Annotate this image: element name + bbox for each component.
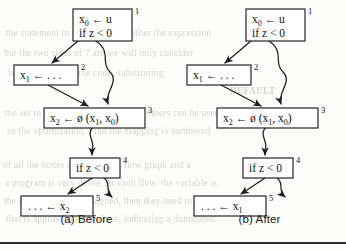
edge-4-to-exit <box>104 178 112 197</box>
node-5-tag: 5 <box>96 193 100 203</box>
node-1-tag: 1 <box>308 6 312 16</box>
node-3-sep: , x <box>272 112 284 125</box>
node-2-after: x1 ← . . . 2 <box>187 62 258 85</box>
panel-after: x0 ← u if z < 0 1 x1 ← . . . 2 <box>173 0 346 232</box>
panel-before: x0 ← u if z < 0 1 x1 ← . . . 2 <box>0 0 173 232</box>
node-2-before: x1 ← . . . 2 <box>14 62 85 85</box>
node-3-phi: ← ø (x <box>233 112 269 125</box>
edge-3-to-4 <box>263 128 266 155</box>
caption-before: (a) Before <box>0 213 173 225</box>
figure-control-flow-graphs: x0 ← u if z < 0 1 x1 ← . . . 2 <box>0 0 346 232</box>
scanned-page: the statement in question or whether the… <box>0 0 346 249</box>
node-3-tag: 3 <box>148 105 152 115</box>
cfg-graph-before: x0 ← u if z < 0 1 x1 ← . . . 2 <box>0 0 173 232</box>
node-5-prefix: . . . ← x <box>28 200 66 212</box>
edge-2-to-3 <box>221 85 261 106</box>
node-3-tag: 3 <box>321 105 325 115</box>
node-3-close: ) <box>288 112 292 125</box>
node-1-line1-rest: ← u <box>89 13 112 25</box>
node-3-after: x2 ← ø (x1, x0) 3 <box>217 105 325 128</box>
node-4-after: if z < 0 4 <box>243 155 301 178</box>
node-2-rest: ← . . . <box>203 69 235 81</box>
caption-after: (b) After <box>173 213 346 225</box>
node-1-line1-rest: ← u <box>262 13 285 25</box>
node-1-tag: 1 <box>135 6 139 16</box>
node-2-tag: 2 <box>254 62 258 72</box>
node-1-line2: if z < 0 <box>79 27 112 39</box>
edge-4-to-exit <box>277 178 285 197</box>
node-3-sep: , x <box>99 112 111 125</box>
page-footer-rule <box>0 242 346 244</box>
node-4-before: if z < 0 4 <box>70 155 128 178</box>
node-2-tag: 2 <box>81 62 85 72</box>
edge-1-to-3 <box>96 41 113 104</box>
node-4-tag: 4 <box>296 155 301 165</box>
node-1-line2: if z < 0 <box>252 27 285 39</box>
node-5-tag: 5 <box>269 193 273 203</box>
edge-1-to-2 <box>52 41 78 63</box>
node-3-before: x2 ← ø (x1, x0) 3 <box>44 105 152 128</box>
node-3-phi: ← ø (x <box>60 112 96 125</box>
node-1-before: x0 ← u if z < 0 1 <box>73 6 139 41</box>
edge-3-to-4 <box>90 128 93 155</box>
edge-1-to-2 <box>225 41 251 63</box>
node-3-close: ) <box>115 112 119 125</box>
node-4-text: if z < 0 <box>249 162 282 174</box>
edge-4-to-5 <box>241 178 265 194</box>
node-2-rest: ← . . . <box>30 69 62 81</box>
node-4-text: if z < 0 <box>76 162 109 174</box>
edge-2-to-3 <box>48 85 88 106</box>
edge-1-to-3 <box>269 41 286 104</box>
edge-4-to-5 <box>68 178 92 194</box>
node-1-after: x0 ← u if z < 0 1 <box>246 6 312 41</box>
cfg-graph-after: x0 ← u if z < 0 1 x1 ← . . . 2 <box>173 0 346 232</box>
node-5-prefix: . . . ← x <box>201 200 239 212</box>
node-4-tag: 4 <box>123 155 128 165</box>
